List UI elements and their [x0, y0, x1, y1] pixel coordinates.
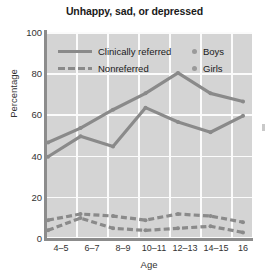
data-point	[144, 106, 148, 110]
legend-solid-line-swatch	[58, 50, 92, 53]
chart-figure: Unhappy, sad, or depressed Percentage 10…	[0, 0, 269, 276]
data-point	[111, 145, 115, 149]
chart-title: Unhappy, sad, or depressed	[0, 5, 269, 17]
legend-dashed-line-swatch	[58, 67, 92, 70]
series-clinically-referred-girls	[48, 108, 243, 157]
y-tick-0: 0	[2, 233, 42, 244]
data-point	[144, 228, 148, 232]
x-tick-14-15: 14–15	[203, 243, 228, 253]
legend-label-nonreferred: Nonreferred	[98, 63, 149, 74]
chart-legend: Clinically referred Nonreferred Boys Gir…	[58, 44, 238, 78]
data-point	[79, 212, 83, 216]
data-point	[241, 230, 245, 234]
y-tick-60: 60	[2, 109, 42, 120]
x-tick-16: 16	[238, 243, 248, 253]
x-axis-line	[44, 238, 253, 241]
y-tick-40: 40	[2, 150, 42, 161]
data-point	[79, 216, 83, 220]
data-point	[111, 108, 115, 112]
legend-label-girls: Girls	[203, 63, 223, 74]
data-point	[144, 218, 148, 222]
x-axis-tick-labels: 4–5 6–7 8–9 10–11 12–13 14–15 16	[0, 243, 269, 257]
x-axis-label: Age	[46, 259, 252, 270]
data-point	[209, 91, 213, 95]
data-point	[46, 140, 50, 144]
data-point	[209, 130, 213, 134]
data-point	[79, 134, 83, 138]
legend-dot-girls-icon	[192, 66, 197, 71]
page-edge-artifact	[262, 124, 265, 131]
data-point	[176, 212, 180, 216]
data-point	[46, 228, 50, 232]
x-tick-8-9: 8–9	[115, 243, 130, 253]
data-point	[209, 214, 213, 218]
data-point	[176, 226, 180, 230]
legend-item-clinically-referred: Clinically referred	[58, 44, 171, 59]
data-point	[241, 220, 245, 224]
data-point	[111, 226, 115, 230]
legend-item-girls: Girls	[191, 61, 223, 76]
y-tick-80: 80	[2, 68, 42, 79]
legend-label-boys: Boys	[203, 46, 224, 57]
y-tick-20: 20	[2, 191, 42, 202]
data-point	[144, 91, 148, 95]
x-tick-12-13: 12–13	[172, 243, 197, 253]
data-point	[46, 155, 50, 159]
x-tick-10-11: 10–11	[142, 243, 166, 253]
legend-dot-boys-icon	[192, 49, 197, 54]
data-point	[241, 100, 245, 104]
data-point	[79, 126, 83, 130]
data-point	[176, 120, 180, 124]
y-tick-100: 100	[2, 27, 42, 38]
x-tick-6-7: 6–7	[84, 243, 99, 253]
y-axis-tick-labels: 100 80 60 40 20 0	[0, 32, 42, 238]
legend-item-nonreferred: Nonreferred	[58, 61, 149, 76]
data-point	[209, 224, 213, 228]
legend-item-boys: Boys	[191, 44, 224, 59]
data-point	[241, 114, 245, 118]
y-axis-line	[44, 30, 47, 240]
x-tick-4-5: 4–5	[53, 243, 68, 253]
data-point	[46, 218, 50, 222]
data-point	[111, 214, 115, 218]
legend-label-clinically-referred: Clinically referred	[98, 46, 171, 57]
